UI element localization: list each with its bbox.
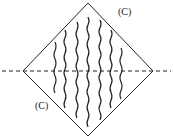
label-c-bottom: (C): [35, 100, 48, 111]
wave-line: [99, 20, 101, 120]
wave-line: [110, 30, 112, 108]
label-c-top: (C): [118, 6, 131, 17]
diagram-canvas: (C) (C): [0, 0, 173, 137]
wave-line: [120, 48, 122, 99]
diamond-outline: [23, 3, 153, 136]
wave-line: [64, 30, 66, 108]
wave-line: [54, 42, 56, 93]
diamond-diagram: [0, 0, 173, 137]
wave-line: [87, 17, 89, 127]
wave-line: [76, 22, 78, 118]
